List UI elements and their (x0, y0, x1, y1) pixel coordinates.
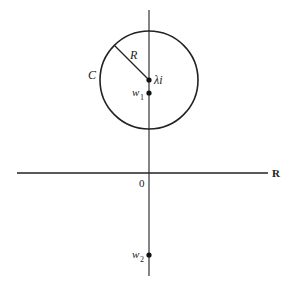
radius-label: R (129, 48, 138, 62)
circle-label: C (88, 68, 97, 82)
center-label: λi (153, 73, 163, 87)
center-point (146, 77, 151, 82)
contour-diagram: R C λi w 1 w 2 0 R (0, 0, 296, 281)
diagram-canvas: R C λi w 1 w 2 0 R (0, 0, 296, 281)
real-axis-label: R (272, 167, 281, 179)
w2-label: w (132, 248, 140, 260)
w2-point (146, 252, 151, 257)
w1-point (146, 90, 151, 95)
w1-label: w (132, 86, 140, 98)
origin-label: 0 (139, 177, 145, 189)
w1-subscript: 1 (140, 93, 144, 102)
w2-subscript: 2 (140, 255, 144, 264)
